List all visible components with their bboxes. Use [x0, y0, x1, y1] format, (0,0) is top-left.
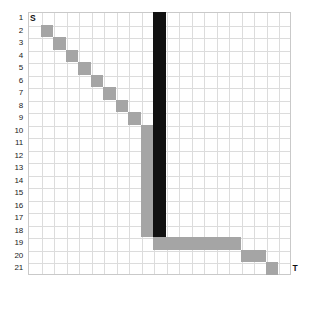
row-label-6: 6 [1, 75, 23, 88]
path-cell-diagonal-staircase [53, 37, 66, 50]
path-run-dark-barrier [153, 12, 166, 237]
row-label-18: 18 [1, 225, 23, 238]
row-label-11: 11 [1, 137, 23, 150]
endpoint-label-target: T [293, 262, 298, 275]
path-cell-diagonal-staircase [128, 112, 141, 125]
grid-line-vertical [192, 13, 193, 274]
grid-line-vertical [54, 13, 55, 274]
row-label-20: 20 [1, 250, 23, 263]
path-run-vertical-descent [141, 125, 154, 238]
grid-line-vertical [179, 13, 180, 274]
grid-line-vertical [167, 13, 168, 274]
row-label-13: 13 [1, 162, 23, 175]
grid-line-vertical [129, 13, 130, 274]
row-label-19: 19 [1, 237, 23, 250]
grid-line-vertical [92, 13, 93, 274]
path-cell-diagonal-staircase [41, 25, 54, 38]
grid-path-figure: 123456789101112131415161718192021 ST [0, 0, 310, 311]
grid-line-horizontal [29, 263, 290, 264]
path-run-horizontal-run [153, 237, 241, 250]
path-cell-diagonal-staircase [78, 62, 91, 75]
path-cell-diagonal-staircase [116, 100, 129, 113]
grid-line-vertical [217, 13, 218, 274]
grid-line-vertical [79, 13, 80, 274]
row-label-7: 7 [1, 87, 23, 100]
path-cell-diagonal-staircase [103, 87, 116, 100]
path-run-step-three [266, 262, 279, 275]
grid-line-vertical [267, 13, 268, 274]
row-label-8: 8 [1, 100, 23, 113]
row-label-17: 17 [1, 212, 23, 225]
row-label-15: 15 [1, 187, 23, 200]
row-label-21: 21 [1, 262, 23, 275]
grid-line-vertical [279, 13, 280, 274]
row-label-14: 14 [1, 175, 23, 188]
row-label-9: 9 [1, 112, 23, 125]
row-label-4: 4 [1, 50, 23, 63]
row-label-16: 16 [1, 200, 23, 213]
path-cell-diagonal-staircase [91, 75, 104, 88]
row-label-10: 10 [1, 125, 23, 138]
grid-line-vertical [104, 13, 105, 274]
row-label-3: 3 [1, 37, 23, 50]
row-label-1: 1 [1, 12, 23, 25]
grid-line-vertical [42, 13, 43, 274]
row-label-2: 2 [1, 25, 23, 38]
grid-line-vertical [204, 13, 205, 274]
endpoint-label-start: S [30, 12, 36, 25]
path-run-step-two [241, 250, 266, 263]
grid-line-vertical [242, 13, 243, 274]
grid-line-vertical [229, 13, 230, 274]
grid-line-vertical [117, 13, 118, 274]
row-label-12: 12 [1, 150, 23, 163]
path-cell-diagonal-staircase [66, 50, 79, 63]
grid-line-vertical [254, 13, 255, 274]
row-label-5: 5 [1, 62, 23, 75]
